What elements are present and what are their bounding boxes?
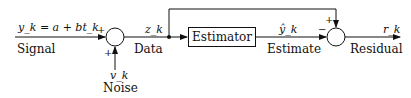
- data-symbol: z_k: [145, 24, 163, 35]
- estimate-label: Estimate: [267, 43, 321, 55]
- data-label: Data: [134, 43, 163, 55]
- residual-label: Residual: [350, 43, 403, 55]
- estimator-block: Estimator: [188, 27, 256, 47]
- noise-label: Noise: [103, 82, 138, 94]
- junction1-plus-left: +: [97, 25, 105, 35]
- noise-symbol: v_k: [110, 70, 128, 81]
- estimate-symbol: ŷ_k: [279, 24, 297, 35]
- signal-label: Signal: [17, 43, 55, 55]
- signal-equation: y_k = a + bt_k: [18, 22, 99, 33]
- estimator-label: Estimator: [192, 30, 252, 44]
- junction1-plus-bottom: +: [104, 48, 112, 58]
- residual-symbol: r_k: [383, 24, 400, 35]
- junction2-minus-left: −: [318, 25, 326, 35]
- junction2-plus-top: +: [325, 15, 333, 25]
